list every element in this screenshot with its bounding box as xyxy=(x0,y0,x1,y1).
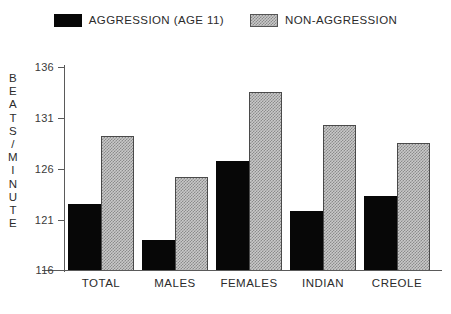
bar-group-total xyxy=(68,136,134,270)
bar-group-indian xyxy=(290,125,356,270)
bar-aggression-males xyxy=(142,240,175,270)
x-tick-label-creole: CREOLE xyxy=(358,277,436,289)
bar-non-aggression-males xyxy=(175,177,208,270)
y-axis-title-char: T xyxy=(9,112,16,125)
legend-label-aggression: AGGRESSION (AGE 11) xyxy=(89,14,224,26)
y-axis-title-char: I xyxy=(11,164,14,177)
y-tick-label-131: 131 xyxy=(28,112,54,124)
x-tick-label-females: FEMALES xyxy=(210,277,288,289)
bar-aggression-creole xyxy=(364,196,397,270)
y-tick-label-136: 136 xyxy=(28,61,54,73)
plot-area xyxy=(64,67,438,270)
y-tick-mark xyxy=(58,270,65,271)
bar-group-females xyxy=(216,92,282,270)
y-axis-title-char: U xyxy=(9,191,18,204)
x-tick-label-total: TOTAL xyxy=(62,277,140,289)
y-axis-title-char: E xyxy=(9,85,17,98)
y-axis-title-char: S xyxy=(9,125,17,138)
y-axis-title-char: N xyxy=(9,178,18,191)
bar-non-aggression-indian xyxy=(323,125,356,270)
y-axis-title-char: / xyxy=(11,138,14,151)
y-tick-label-121: 121 xyxy=(28,214,54,226)
bar-group-creole xyxy=(364,143,430,270)
y-tick-label-126: 126 xyxy=(28,163,54,175)
solid-black-swatch xyxy=(54,14,82,27)
bar-non-aggression-creole xyxy=(397,143,430,270)
y-axis-title-char: B xyxy=(9,72,17,85)
x-tick-label-indian: INDIAN xyxy=(284,277,362,289)
x-tick-label-males: MALES xyxy=(136,277,214,289)
y-axis-title-char: T xyxy=(9,204,16,217)
chart-legend: AGGRESSION (AGE 11) NON-AGGRESSION xyxy=(0,6,451,34)
bar-non-aggression-females xyxy=(249,92,282,270)
x-axis-line xyxy=(42,270,442,271)
hatched-gray-swatch xyxy=(250,14,278,27)
bar-aggression-females xyxy=(216,161,249,270)
bar-non-aggression-total xyxy=(101,136,134,270)
bar-aggression-indian xyxy=(290,211,323,270)
legend-entry-non-aggression: NON-AGGRESSION xyxy=(250,14,397,27)
legend-entry-aggression: AGGRESSION (AGE 11) xyxy=(54,14,224,27)
y-axis-title: B E A T S / M I N U T E xyxy=(6,72,20,230)
legend-label-non-aggression: NON-AGGRESSION xyxy=(285,14,397,26)
y-axis-title-char: A xyxy=(9,98,17,111)
bar-group-males xyxy=(142,177,208,270)
y-axis-title-char: M xyxy=(8,151,18,164)
y-tick-label-116: 116 xyxy=(28,264,54,276)
y-axis-title-char: E xyxy=(9,217,17,230)
bar-aggression-total xyxy=(68,204,101,270)
